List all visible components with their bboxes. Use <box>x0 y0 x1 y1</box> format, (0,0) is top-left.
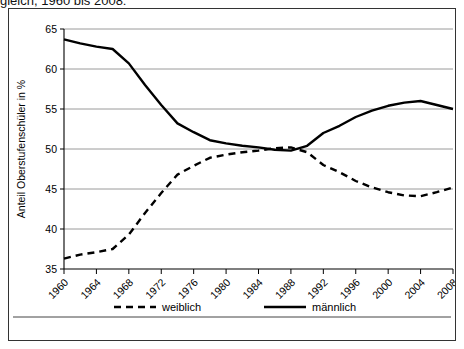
y-tick-label: 35 <box>45 263 57 275</box>
x-tick-label: 1960 <box>45 276 70 301</box>
legend-label-weiblich: weiblich <box>161 301 201 313</box>
x-tick-label: 2004 <box>402 276 427 301</box>
y-tick-label: 65 <box>45 23 57 35</box>
series-line-männlich <box>64 39 453 150</box>
page-caption: gleich, 1960 bis 2008: <box>0 0 464 8</box>
x-tick-label: 1972 <box>143 276 168 301</box>
x-tick-label: 1992 <box>305 276 330 301</box>
x-tick-label: 2000 <box>370 276 395 301</box>
x-tick-label: 1976 <box>175 276 200 301</box>
line-chart: 35404550556065Anteil Oberstufenschüler i… <box>9 9 455 340</box>
x-tick-label: 1980 <box>207 276 232 301</box>
x-tick-label: 1988 <box>272 276 297 301</box>
y-tick-label: 45 <box>45 183 57 195</box>
x-tick-label: 2008 <box>434 276 455 301</box>
series-line-weiblich <box>64 147 453 258</box>
chart-frame: 35404550556065Anteil Oberstufenschüler i… <box>8 8 456 341</box>
x-tick-label: 1996 <box>337 276 362 301</box>
x-tick-label: 1984 <box>240 276 265 301</box>
y-tick-label: 60 <box>45 63 57 75</box>
x-tick-label: 1964 <box>78 276 103 301</box>
y-tick-label: 40 <box>45 223 57 235</box>
y-axis-title: Anteil Oberstufenschüler in % <box>15 80 27 218</box>
x-tick-label: 1968 <box>110 276 135 301</box>
y-tick-label: 55 <box>45 103 57 115</box>
y-tick-label: 50 <box>45 143 57 155</box>
chart-screenshot: gleich, 1960 bis 2008: 35404550556065Ant… <box>0 0 464 349</box>
legend-label-männlich: männlich <box>312 301 356 313</box>
